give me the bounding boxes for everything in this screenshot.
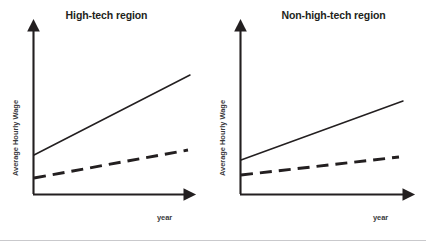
dashed-trend-line-high-tech — [34, 150, 188, 178]
solid-trend-line-non-high-tech — [241, 101, 403, 160]
y-axis-label-high-tech: Average Hourly Wage — [9, 86, 23, 190]
two-panel-figure: High-tech region Average Hourly Wage yea… — [0, 0, 426, 241]
panel-non-high-tech: Non-high-tech region Average Hourly Wage… — [213, 0, 426, 241]
y-axis-label-non-high-tech: Average Hourly Wage — [216, 86, 230, 190]
solid-trend-line-high-tech — [34, 75, 190, 155]
dashed-trend-line-non-high-tech — [241, 157, 399, 175]
x-axis-label-high-tech: year — [157, 213, 172, 222]
x-axis-label-non-high-tech: year — [373, 213, 388, 222]
plot-area-high-tech — [0, 0, 213, 241]
plot-area-non-high-tech — [213, 0, 426, 241]
panel-high-tech: High-tech region Average Hourly Wage yea… — [0, 0, 213, 241]
